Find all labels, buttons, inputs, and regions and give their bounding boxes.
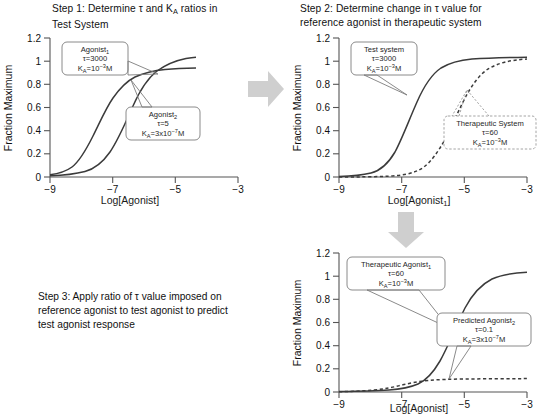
step2-ytick-06: 0.6 [316, 102, 330, 113]
step2-callout-test-system-leader [364, 75, 407, 95]
step3-y-ticks: 0 0.2 0.4 0.6 0.8 1 1.2 [316, 248, 339, 398]
step3-text-line3: test agonist response [38, 319, 135, 330]
step1-y-ticks: 0 0.2 0.4 0.6 0.8 1 1.2 [27, 33, 50, 183]
step1-callout-agonist1-leader [128, 61, 158, 75]
step3-ytick-02: 0.2 [316, 363, 330, 374]
step3-ytick-08: 0.8 [316, 294, 330, 305]
step3-callout-therapeutic-agonist1: Therapeutic Agonist1 τ=60 KA=10−3M [347, 257, 449, 328]
step2-title-line1: Step 2: Determine change in τ value for [300, 3, 482, 14]
step3-callout-therapeutic-agonist1-line2: τ=60 [388, 269, 404, 278]
step1-callout-agonist1-line2: τ=3000 [83, 54, 107, 63]
step3-text-line2: reference agonist to test agonist to pre… [38, 305, 228, 316]
step3-callout-predicted-agonist2-line2: τ=0.1 [475, 325, 493, 334]
step3-description: Step 3: Apply ratio of τ value imposed o… [38, 290, 268, 332]
step1-chart-svg: Fraction Maximum 0 0.2 0.4 0.6 0.8 1 1.2 [0, 28, 260, 193]
step1-chart-panel: Fraction Maximum 0 0.2 0.4 0.6 0.8 1 1.2 [0, 28, 260, 193]
step2-callout-therapeutic-system-line1: Therapeutic System [456, 119, 524, 128]
step3-ytick-0: 0 [324, 387, 330, 398]
step2-callout-therapeutic-system-leader [452, 90, 467, 116]
step1-ytick-04: 0.4 [27, 125, 41, 136]
step1-ytick-0: 0 [35, 172, 41, 183]
step2-ytick-0: 0 [324, 172, 330, 183]
step2-chart-svg: Fraction Maximum 0 0.2 0.4 0.6 0.8 1 1.2… [289, 28, 549, 193]
step1-ytick-1: 1 [35, 56, 41, 67]
step3-x-axis-label: Log[Agonist] [390, 402, 448, 414]
step2-y-axis-label: Fraction Maximum [291, 65, 303, 152]
step2-ytick-1: 1 [324, 56, 330, 67]
step2-callout-test-system-line2: τ=3000 [372, 54, 396, 63]
right-arrow-icon [248, 71, 284, 107]
step1-ytick-12: 1.2 [27, 33, 41, 44]
step2-ytick-02: 0.2 [316, 148, 330, 159]
step3-text-line1: Step 3: Apply ratio of τ value imposed o… [38, 291, 222, 302]
step2-callout-therapeutic-system: Therapeutic System τ=60 KA=10−3M [444, 90, 536, 149]
step2-x-axis-label-wrap: Log[Agonist1] [289, 190, 549, 208]
step2-y-ticks: 0 0.2 0.4 0.6 0.8 1 1.2 [316, 33, 339, 183]
step1-ytick-06: 0.6 [27, 102, 41, 113]
step3-y-axis-label: Fraction Maximum [291, 280, 303, 367]
step2-callout-therapeutic-system-line2: τ=60 [482, 128, 498, 137]
step2-callout-test-system: Test system τ=3000 KA=10−3M [351, 42, 417, 95]
step3-ytick-04: 0.4 [316, 340, 330, 351]
step1-x-axis-label-wrap: Log[Agonist] [0, 190, 260, 208]
step1-callout-agonist2-line2: τ=5 [157, 119, 169, 128]
step3-ytick-06: 0.6 [316, 317, 330, 328]
step3-x-axis-label-wrap: Log[Agonist] [289, 398, 549, 416]
step2-ytick-12: 1.2 [316, 33, 330, 44]
step3-callout-predicted-agonist2-leader [449, 346, 471, 379]
step3-curve-predicted-agonist2 [339, 379, 527, 392]
step2-x-axis-label: Log[Agonist1] [388, 194, 451, 206]
step1-y-axis-label: Fraction Maximum [2, 65, 14, 152]
step1-title-line1-a: Step 1: Determine τ and K [52, 3, 173, 14]
step1-callout-agonist1: Agonist1 τ=3000 KA=10−3M [62, 42, 158, 75]
step3-ytick-1: 1 [324, 271, 330, 282]
step1-title-line1-b: ratios in [178, 3, 218, 14]
step3-callout-predicted-agonist2: Predicted Agonist2 τ=0.1 KA=3x10−7M [437, 313, 531, 379]
step1-ytick-02: 0.2 [27, 148, 41, 159]
step1-x-axis-label: Log[Agonist] [101, 194, 159, 206]
step3-ytick-12: 1.2 [316, 248, 330, 259]
step3-chart-svg: Fraction Maximum 0 0.2 0.4 0.6 0.8 1 1.2… [289, 243, 549, 408]
step1-ytick-08: 0.8 [27, 79, 41, 90]
step2-title: Step 2: Determine change in τ value for … [300, 2, 540, 29]
step2-ytick-08: 0.8 [316, 79, 330, 90]
step2-chart-panel: Fraction Maximum 0 0.2 0.4 0.6 0.8 1 1.2… [289, 28, 549, 193]
step3-chart-panel: Fraction Maximum 0 0.2 0.4 0.6 0.8 1 1.2… [289, 243, 549, 408]
arrow-step1-to-step2 [246, 68, 286, 110]
step2-callout-therapeutic-system-leader2 [467, 90, 489, 116]
step1-callout-agonist2: Agonist2 τ=5 KA=3x10−7M [126, 80, 200, 140]
step2-title-line2: reference agonist in therapeutic system [300, 17, 482, 28]
step2-callout-test-system-line1: Test system [364, 45, 404, 54]
step2-ytick-04: 0.4 [316, 125, 330, 136]
